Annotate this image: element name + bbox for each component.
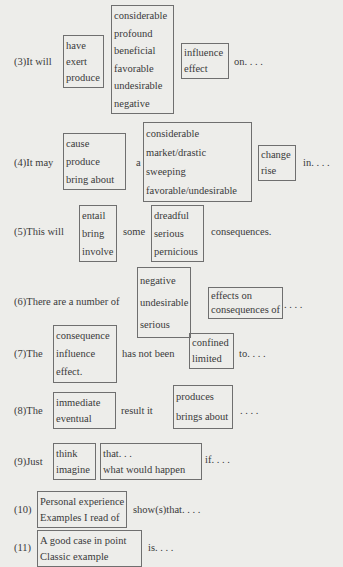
- row-4-adjective-options: considerable market/drastic sweeping fav…: [143, 122, 252, 202]
- row-7-noun-options: consequence influence effect.: [53, 325, 117, 383]
- row-10-tail: show(s)that. . . .: [133, 505, 200, 516]
- row-9-verb-options: think imagine: [53, 443, 96, 480]
- option: favorable/undesirable: [146, 185, 249, 196]
- row-4-tail: in. . . .: [303, 158, 330, 169]
- option: considerable: [114, 10, 171, 21]
- option: beneficial: [114, 45, 171, 56]
- option: change: [261, 149, 293, 160]
- row-4-mid: a: [136, 158, 141, 169]
- option: consequences of: [211, 304, 280, 315]
- row-3-noun-options: influence effect: [181, 43, 229, 79]
- row-9-lead: (9)Just: [14, 457, 43, 468]
- row-3-lead: (3)It will: [14, 57, 52, 68]
- row-11-tail: is. . . .: [148, 543, 173, 554]
- row-5-adjective-options: dreadful serious pernicious: [151, 205, 204, 262]
- option: produces: [176, 391, 230, 402]
- row-7-lead: (7)The: [14, 349, 43, 360]
- row-5-verb-options: entail bring involve: [79, 205, 117, 262]
- option: effects on: [211, 290, 280, 301]
- option: Classic example: [40, 551, 139, 562]
- row-6-adjective-options: negative undesirable serious: [137, 267, 191, 338]
- row-3-adjective-options: considerable profound beneficial favorab…: [111, 5, 174, 114]
- option: bring: [82, 228, 114, 239]
- option: rise: [261, 165, 293, 176]
- row-4-lead: (4)It may: [14, 158, 53, 169]
- row-3-tail: on. . . .: [234, 57, 263, 68]
- option: entail: [82, 210, 114, 221]
- option: undesirable: [114, 80, 171, 91]
- option: pernicious: [154, 246, 201, 257]
- option: influence: [184, 47, 226, 58]
- option: exert: [66, 56, 101, 67]
- option: profound: [114, 28, 171, 39]
- option: produce: [66, 156, 123, 167]
- row-4-verb-options: cause produce bring about: [63, 133, 126, 190]
- option: that. . .: [103, 448, 199, 459]
- row-10-lead: (10): [14, 505, 32, 516]
- row-8-verb-options: produces brings about: [173, 385, 233, 429]
- option: dreadful: [154, 210, 201, 221]
- row-4-noun-options: change rise: [258, 145, 296, 181]
- option: undesirable: [140, 297, 188, 308]
- option: serious: [140, 319, 188, 330]
- option: imagine: [56, 464, 93, 475]
- row-10-subject-options: Personal experience Examples I read of: [37, 491, 127, 528]
- row-6-tail: . . . .: [284, 300, 302, 311]
- row-8-tail: . . . .: [240, 406, 258, 417]
- option: what would happen: [103, 464, 199, 475]
- option: confined: [192, 337, 231, 348]
- row-6-noun-options: effects on consequences of: [208, 287, 283, 319]
- option: negative: [140, 275, 188, 286]
- option: effect: [184, 63, 226, 74]
- row-7-verb-options: confined limited: [189, 333, 234, 369]
- option: involve: [82, 246, 114, 257]
- row-9-tail: if. . . .: [205, 455, 230, 466]
- option: think: [56, 448, 93, 459]
- option: produce: [66, 72, 101, 83]
- row-7-tail: to. . . .: [239, 349, 266, 360]
- row-5-mid: some: [123, 227, 145, 238]
- option: influence: [56, 348, 114, 359]
- row-6-lead: (6)There are a number of: [14, 297, 120, 308]
- option: considerable: [146, 128, 249, 139]
- row-11-lead: (11): [14, 543, 31, 554]
- option: negative: [114, 98, 171, 109]
- option: limited: [192, 353, 231, 364]
- option: Personal experience: [40, 496, 124, 507]
- option: favorable: [114, 63, 171, 74]
- row-3-verb-options: have exert produce: [63, 35, 104, 88]
- row-5-lead: (5)This will: [14, 227, 64, 238]
- option: Examples I read of: [40, 512, 124, 523]
- option: consequence: [56, 330, 114, 341]
- row-9-clause-options: that. . . what would happen: [100, 443, 202, 480]
- option: have: [66, 40, 101, 51]
- option: bring about: [66, 174, 123, 185]
- option: serious: [154, 228, 201, 239]
- row-11-subject-options: A good case in point Classic example: [37, 530, 142, 567]
- option: immediate: [56, 397, 113, 408]
- option: brings about: [176, 411, 230, 422]
- row-7-mid: has not been: [122, 349, 175, 360]
- option: sweeping: [146, 166, 249, 177]
- option: A good case in point: [40, 535, 139, 546]
- option: market/drastic: [146, 147, 249, 158]
- row-5-tail: consequences.: [211, 227, 271, 238]
- row-8-adjective-options: immediate eventual: [53, 392, 116, 429]
- row-8-mid: result it: [121, 406, 153, 417]
- option: effect.: [56, 366, 114, 377]
- option: eventual: [56, 413, 113, 424]
- option: cause: [66, 138, 123, 149]
- row-8-lead: (8)The: [14, 406, 43, 417]
